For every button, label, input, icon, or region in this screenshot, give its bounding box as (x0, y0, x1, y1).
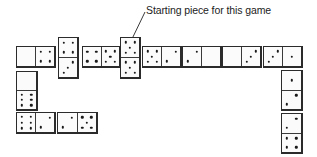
domino-half-5 (101, 47, 120, 66)
pip-dot (250, 55, 252, 57)
pip-dot (95, 51, 97, 53)
pip-dot (20, 121, 22, 123)
domino-tile (82, 46, 121, 68)
domino-half-5 (77, 113, 97, 132)
pip-dot (90, 116, 92, 118)
pip-dot (48, 117, 50, 119)
pip-dot (109, 55, 111, 57)
domino-half-4 (282, 133, 301, 153)
pip-dot (186, 60, 188, 62)
pip-dot (174, 51, 176, 53)
pip-dot (272, 55, 274, 57)
domino-tile (281, 113, 303, 154)
pip-dot (20, 116, 22, 118)
domino-half-2 (35, 113, 54, 132)
pip-dot (30, 104, 32, 106)
pip-dot (146, 61, 148, 63)
pip-dot (295, 146, 297, 148)
pip-dot (71, 61, 73, 63)
domino-half-6 (17, 113, 35, 132)
domino-half-0 (17, 72, 36, 90)
pip-dot (105, 50, 107, 52)
pip-dot (30, 99, 32, 101)
pip-dot (295, 117, 297, 119)
domino-half-0 (201, 47, 220, 66)
domino-half-3 (59, 57, 77, 77)
pip-dot (86, 121, 88, 123)
domino-half-6 (17, 90, 36, 109)
pip-dot (81, 116, 83, 118)
pip-dot (124, 52, 126, 54)
pip-dot (113, 61, 115, 63)
pip-dot (146, 50, 148, 52)
pip-dot (86, 51, 88, 53)
pip-dot (286, 146, 288, 148)
domino-half-5 (121, 38, 139, 57)
pip-dot (124, 72, 126, 74)
pip-dot (133, 72, 135, 74)
pip-dot (133, 41, 135, 43)
domino-half-3 (264, 47, 282, 66)
pip-dot (276, 50, 278, 52)
domino-tile (222, 46, 262, 68)
pip-dot (39, 60, 41, 62)
pip-dot (29, 116, 31, 118)
pip-dot (21, 104, 23, 106)
domino-half-4 (83, 47, 101, 66)
domino-tile (142, 46, 182, 68)
pip-dot (124, 41, 126, 43)
pip-dot (71, 117, 73, 119)
pip-dot (124, 61, 126, 63)
domino-half-2 (58, 113, 77, 132)
domino-tile (57, 112, 98, 134)
pip-dot (62, 72, 64, 74)
pip-dot (71, 42, 73, 44)
pip-dot (30, 93, 32, 95)
domino-tile (16, 112, 56, 134)
pip-dot (86, 60, 88, 62)
domino-half-2 (282, 114, 301, 133)
pip-dot (129, 66, 131, 68)
pip-dot (29, 121, 31, 123)
domino-half-4 (59, 38, 77, 57)
pip-dot (90, 127, 92, 129)
domino-half-1 (282, 71, 301, 90)
domino-half-5 (121, 57, 139, 77)
pip-dot (155, 61, 157, 63)
pip-dot (245, 61, 247, 63)
pip-dot (39, 126, 41, 128)
domino-half-0 (223, 47, 241, 66)
pip-dot (67, 66, 69, 68)
domino-starting-piece (120, 37, 141, 79)
pip-dot (95, 60, 97, 62)
domino-tile (182, 46, 222, 68)
domino-tile (263, 46, 303, 68)
pip-dot (29, 127, 31, 129)
pip-dot (286, 103, 288, 105)
domino-half-3 (241, 47, 260, 66)
pip-dot (195, 51, 197, 53)
pip-dot (286, 127, 288, 129)
domino-tile (281, 70, 303, 111)
domino-half-5 (143, 47, 161, 66)
pip-dot (48, 51, 50, 53)
pip-dot (254, 50, 256, 52)
domino-half-2 (183, 47, 201, 66)
pip-dot (165, 60, 167, 62)
pip-dot (113, 50, 115, 52)
pip-dot (291, 55, 293, 57)
pip-dot (39, 51, 41, 53)
domino-half-2 (282, 90, 301, 110)
pip-dot (295, 137, 297, 139)
pip-dot (61, 126, 63, 128)
pip-dot (62, 42, 64, 44)
domino-tile (58, 37, 79, 79)
pip-dot (129, 46, 131, 48)
domino-half-4 (35, 47, 54, 66)
pip-dot (62, 51, 64, 53)
pip-dot (133, 61, 135, 63)
domino-tile (16, 71, 38, 111)
pip-dot (286, 137, 288, 139)
pip-dot (267, 61, 269, 63)
pip-dot (105, 61, 107, 63)
